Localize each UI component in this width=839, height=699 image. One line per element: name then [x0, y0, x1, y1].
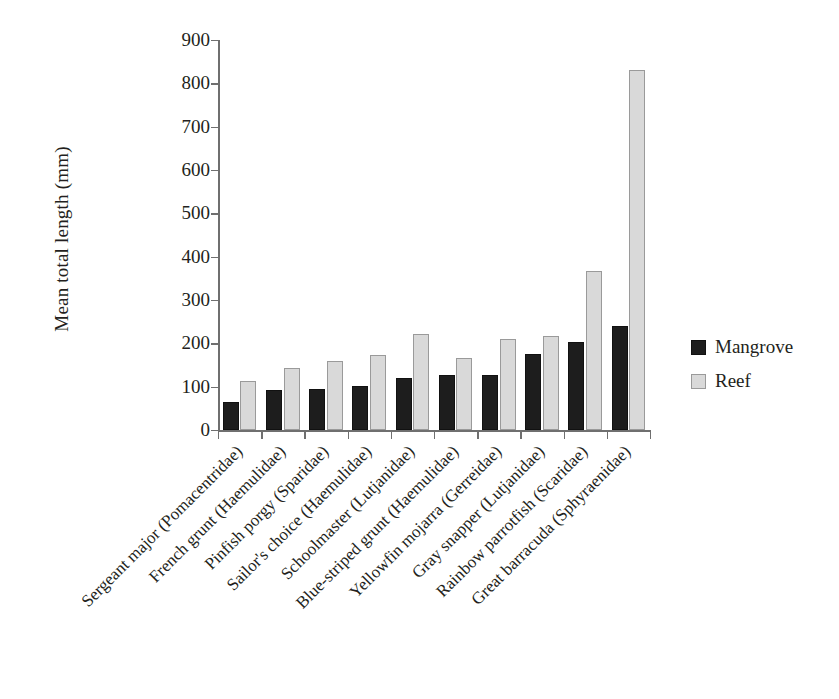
x-tick-mark [218, 430, 219, 439]
bar-group [477, 40, 520, 430]
legend-swatch-icon [691, 374, 706, 389]
bar-mangrove[interactable] [309, 389, 325, 430]
bar-reef[interactable] [413, 334, 429, 430]
bar-reef[interactable] [240, 381, 256, 430]
bar-mangrove[interactable] [396, 378, 412, 430]
y-tick-label: 300 [182, 289, 211, 311]
bar-group [304, 40, 347, 430]
bar-reef[interactable] [456, 358, 472, 430]
y-tick-label: 200 [182, 332, 211, 354]
y-tick-label: 0 [201, 419, 211, 441]
bar-mangrove[interactable] [352, 386, 368, 430]
bar-group [218, 40, 261, 430]
bar-group [434, 40, 477, 430]
x-tick-mark [607, 430, 608, 439]
bar-mangrove[interactable] [482, 375, 498, 430]
bar-chart-figure: Mean total length (mm) 01002003004005006… [0, 0, 839, 699]
bar-reef[interactable] [586, 271, 602, 430]
x-tick-mark [391, 430, 392, 439]
legend-item-reef[interactable]: Reef [691, 364, 831, 398]
bar-reef[interactable] [370, 355, 386, 430]
y-tick-mark [211, 387, 218, 388]
bar-group [261, 40, 304, 430]
legend-label: Mangrove [715, 336, 793, 358]
y-tick-label: 700 [182, 116, 211, 138]
y-tick-label: 400 [182, 246, 211, 268]
bar-reef[interactable] [500, 339, 516, 430]
x-tick-mark [564, 430, 565, 439]
bar-reef[interactable] [284, 368, 300, 430]
bar-group [607, 40, 650, 430]
chart-legend: MangroveReef [691, 330, 831, 398]
bar-mangrove[interactable] [439, 375, 455, 430]
x-tick-mark [304, 430, 305, 439]
bar-mangrove[interactable] [266, 390, 282, 430]
legend-item-mangrove[interactable]: Mangrove [691, 330, 831, 364]
bar-group [564, 40, 607, 430]
bar-mangrove[interactable] [525, 354, 541, 430]
y-tick-mark [211, 127, 218, 128]
bar-reef[interactable] [629, 70, 645, 430]
bar-group [391, 40, 434, 430]
bar-group [520, 40, 563, 430]
bar-reef[interactable] [543, 336, 559, 430]
y-tick-mark [211, 430, 218, 431]
bar-mangrove[interactable] [612, 326, 628, 430]
y-axis-title: Mean total length (mm) [51, 89, 91, 389]
plot-area: 0100200300400500600700800900 [218, 40, 650, 430]
y-tick-mark [211, 170, 218, 171]
y-tick-mark [211, 300, 218, 301]
legend-swatch-icon [691, 340, 706, 355]
y-tick-mark [211, 83, 218, 84]
x-tick-mark [650, 430, 651, 439]
x-tick-mark [261, 430, 262, 439]
y-tick-label: 800 [182, 72, 211, 94]
x-tick-mark [434, 430, 435, 439]
bar-mangrove[interactable] [223, 402, 239, 430]
y-tick-label: 500 [182, 202, 211, 224]
bar-group [348, 40, 391, 430]
y-tick-mark [211, 343, 218, 344]
y-tick-mark [211, 257, 218, 258]
x-tick-mark [520, 430, 521, 439]
y-tick-label: 600 [182, 159, 211, 181]
legend-label: Reef [715, 370, 751, 392]
y-tick-mark [211, 40, 218, 41]
y-tick-mark [211, 213, 218, 214]
bar-reef[interactable] [327, 361, 343, 430]
x-tick-mark [348, 430, 349, 439]
bar-mangrove[interactable] [568, 342, 584, 430]
y-tick-label: 100 [182, 376, 211, 398]
y-tick-label: 900 [182, 29, 211, 51]
x-tick-mark [477, 430, 478, 439]
